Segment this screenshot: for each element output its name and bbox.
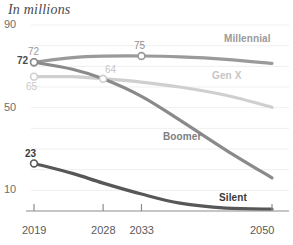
series-label-millennial: Millennial <box>224 33 271 44</box>
y-axis-tick-10: 10 <box>4 183 16 195</box>
value-label-gen-x-2028: 64 <box>105 64 116 75</box>
series-label-silent: Silent <box>219 192 247 203</box>
value-label-gen-x-2019: 65 <box>26 81 37 92</box>
series-label-boomer: Boomer <box>163 131 201 142</box>
x-axis-tick-2019: 2019 <box>22 224 46 236</box>
y-axis-tick-90: 90 <box>4 18 16 30</box>
value-label-silent-2019: 23 <box>25 148 36 159</box>
data-point-markers-group <box>31 53 145 167</box>
value-label-millennial-2019: 72 <box>28 46 39 57</box>
value-label-boomer-2019: 72 <box>17 55 28 66</box>
chart-container: In millions 90 50 10 2019 2028 2033 2050… <box>0 0 293 245</box>
series-label-gen-x: Gen X <box>212 70 241 81</box>
value-label-millennial-2033: 75 <box>134 40 145 51</box>
x-axis-tick-2033: 2033 <box>129 224 153 236</box>
x-axis-tick-2028: 2028 <box>91 224 115 236</box>
x-axis-tick-2050: 2050 <box>250 224 274 236</box>
y-axis-tick-50: 50 <box>4 101 16 113</box>
